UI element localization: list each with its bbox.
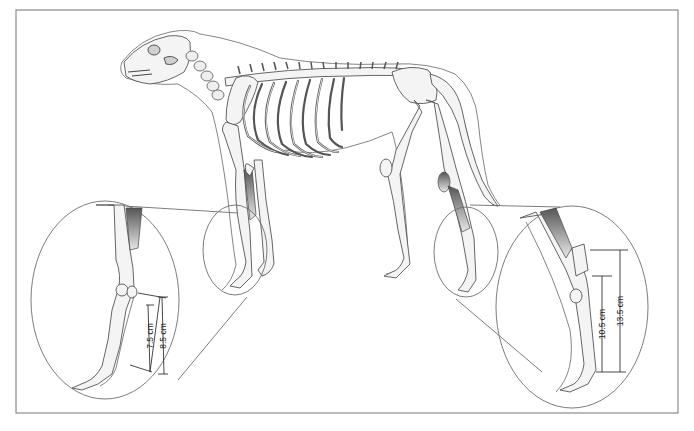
hindlimb-measure-long: 13.5 cm — [615, 296, 625, 326]
hindlimb-measure-short: 10.5 cm — [597, 309, 607, 339]
forelimb-measure-long: 8.5 cm — [158, 323, 168, 349]
skeleton-illustration: 7.5 cm 8.5 cm 10.5 cm 13.5 cm — [0, 0, 694, 431]
forelimb-measure-short: 7.5 cm — [145, 323, 155, 349]
